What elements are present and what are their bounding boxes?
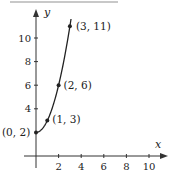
x-axis-label: x bbox=[155, 138, 162, 151]
point-label: (2, 6) bbox=[64, 79, 92, 91]
x-tick-label: 2 bbox=[55, 161, 61, 172]
data-point bbox=[57, 83, 61, 87]
chart: xy 24681046810 (0, 2)(1, 3)(2, 6)(3, 11) bbox=[0, 0, 172, 178]
data-point bbox=[34, 130, 38, 134]
data-point bbox=[45, 119, 49, 123]
y-tick-label: 6 bbox=[25, 80, 31, 91]
x-tick-label: 10 bbox=[143, 161, 156, 172]
x-tick-label: 8 bbox=[123, 161, 129, 172]
x-axis-arrow-icon bbox=[160, 153, 168, 159]
data-point bbox=[68, 24, 72, 28]
y-axis-label: y bbox=[43, 6, 51, 19]
point-label: (1, 3) bbox=[52, 113, 80, 125]
point-label: (0, 2) bbox=[2, 126, 30, 138]
ticks: 24681046810 bbox=[18, 33, 155, 173]
point-label: (3, 11) bbox=[76, 20, 111, 32]
y-tick-label: 8 bbox=[25, 56, 31, 67]
y-axis-arrow-icon bbox=[33, 9, 39, 17]
y-tick-label: 4 bbox=[25, 103, 31, 114]
y-tick-label: 10 bbox=[18, 33, 31, 44]
x-tick-label: 6 bbox=[101, 161, 107, 172]
x-tick-label: 4 bbox=[78, 161, 84, 172]
